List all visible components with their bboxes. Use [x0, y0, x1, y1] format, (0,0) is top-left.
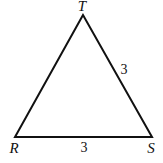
triangle-diagram: T R S 3 3 [0, 0, 163, 163]
side-length-ts: 3 [121, 62, 128, 77]
vertex-label-t: T [78, 0, 88, 14]
triangle-rst [15, 15, 152, 137]
vertex-label-r: R [8, 140, 18, 156]
side-length-rs: 3 [81, 140, 88, 155]
vertex-label-s: S [147, 140, 155, 156]
